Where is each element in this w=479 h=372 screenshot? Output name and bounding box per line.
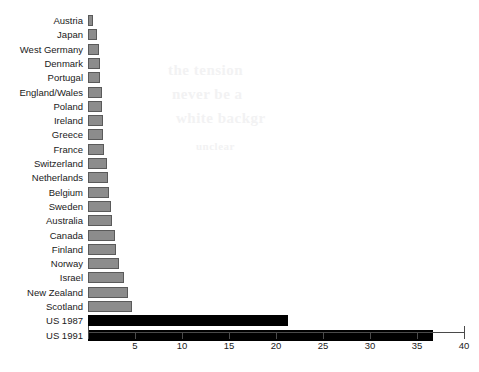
category-label: US 1991 xyxy=(0,329,83,343)
bar-row: Australia xyxy=(0,214,479,228)
category-label: Denmark xyxy=(0,57,83,71)
x-axis-tick-label: 30 xyxy=(355,340,385,351)
bar-row: Denmark xyxy=(0,57,479,71)
bar xyxy=(88,187,109,198)
bar xyxy=(88,72,100,83)
category-label: Netherlands xyxy=(0,171,83,185)
bar-row: Canada xyxy=(0,229,479,243)
category-label: Scotland xyxy=(0,300,83,314)
bar-chart: the tension never be a white backgr uncl… xyxy=(0,0,479,372)
bar-row: Greece xyxy=(0,128,479,142)
bar-row: West Germany xyxy=(0,43,479,57)
x-axis-tick-label: 15 xyxy=(214,340,244,351)
x-axis-tick xyxy=(182,332,183,339)
category-label: Greece xyxy=(0,128,83,142)
bar-row: England/Wales xyxy=(0,86,479,100)
bar xyxy=(88,301,132,312)
bar-row: US 1987 xyxy=(0,314,479,328)
category-label: Ireland xyxy=(0,114,83,128)
bar-row: Portugal xyxy=(0,71,479,85)
category-label: Switzerland xyxy=(0,157,83,171)
bar xyxy=(88,158,107,169)
bar xyxy=(88,44,99,55)
bar-row: Israel xyxy=(0,271,479,285)
bar-row: Austria xyxy=(0,14,479,28)
category-label: Austria xyxy=(0,14,83,28)
bar-row: New Zealand xyxy=(0,286,479,300)
bar-row: Norway xyxy=(0,257,479,271)
bar xyxy=(88,315,288,326)
bar-row: Scotland xyxy=(0,300,479,314)
bar xyxy=(88,272,124,283)
plot-area: AustriaJapanWest GermanyDenmarkPortugalE… xyxy=(0,0,479,372)
x-axis-tick xyxy=(135,332,136,339)
bar xyxy=(88,172,108,183)
category-label: Australia xyxy=(0,214,83,228)
bar-row: Japan xyxy=(0,28,479,42)
category-label: Norway xyxy=(0,257,83,271)
bar xyxy=(88,87,102,98)
bar-row: Finland xyxy=(0,243,479,257)
x-axis-tick-label: 35 xyxy=(402,340,432,351)
bar xyxy=(88,230,115,241)
x-axis-tick xyxy=(464,332,465,339)
x-axis-tick xyxy=(276,332,277,339)
category-label: Japan xyxy=(0,28,83,42)
x-axis-tick xyxy=(417,332,418,339)
category-label: England/Wales xyxy=(0,86,83,100)
bar xyxy=(88,258,119,269)
x-axis-tick-label: 20 xyxy=(261,340,291,351)
x-axis-tick-label: 10 xyxy=(167,340,197,351)
bar xyxy=(88,129,103,140)
x-axis-tick-label: 40 xyxy=(449,340,479,351)
bar xyxy=(88,144,104,155)
category-label: Israel xyxy=(0,271,83,285)
bar xyxy=(88,287,128,298)
bar xyxy=(88,115,103,126)
x-axis-tick-label: 25 xyxy=(308,340,338,351)
bar xyxy=(88,244,116,255)
bar xyxy=(88,101,102,112)
bar-row: Sweden xyxy=(0,200,479,214)
category-label: US 1987 xyxy=(0,314,83,328)
x-axis-tick xyxy=(88,332,89,339)
category-label: Finland xyxy=(0,243,83,257)
category-label: New Zealand xyxy=(0,286,83,300)
x-axis-tick xyxy=(370,332,371,339)
bar-row: Switzerland xyxy=(0,157,479,171)
bar xyxy=(88,15,93,26)
category-label: Sweden xyxy=(0,200,83,214)
category-label: Portugal xyxy=(0,71,83,85)
bar-row: Belgium xyxy=(0,186,479,200)
x-axis-tick-label: 5 xyxy=(120,340,150,351)
bar-row: France xyxy=(0,143,479,157)
bar xyxy=(88,58,100,69)
category-label: France xyxy=(0,143,83,157)
category-label: Canada xyxy=(0,229,83,243)
x-axis-tick xyxy=(229,332,230,339)
bar xyxy=(88,29,97,40)
bar xyxy=(88,201,111,212)
category-label: West Germany xyxy=(0,43,83,57)
category-label: Belgium xyxy=(0,186,83,200)
bar xyxy=(88,215,112,226)
bar-row: Netherlands xyxy=(0,171,479,185)
bar-row: Poland xyxy=(0,100,479,114)
category-label: Poland xyxy=(0,100,83,114)
bar-row: Ireland xyxy=(0,114,479,128)
x-axis-tick xyxy=(323,332,324,339)
